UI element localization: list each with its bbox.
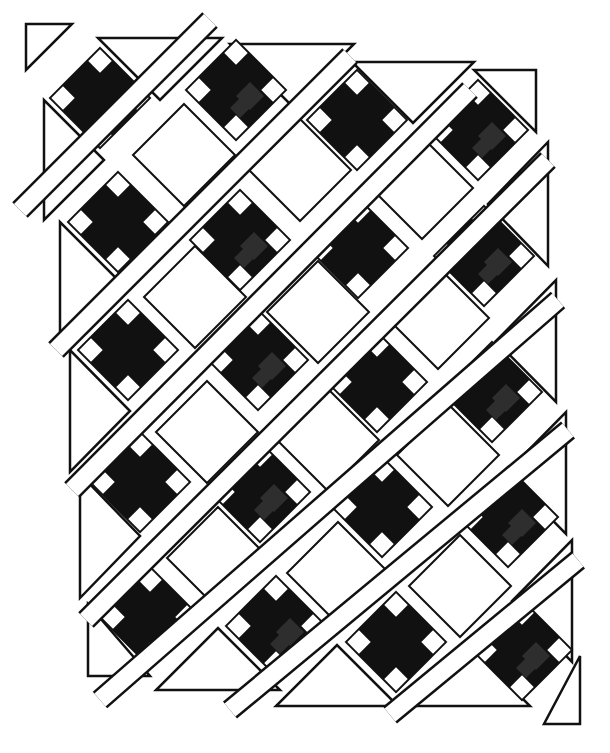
quilt-diagram [0,0,610,753]
setting-triangle [26,24,72,70]
